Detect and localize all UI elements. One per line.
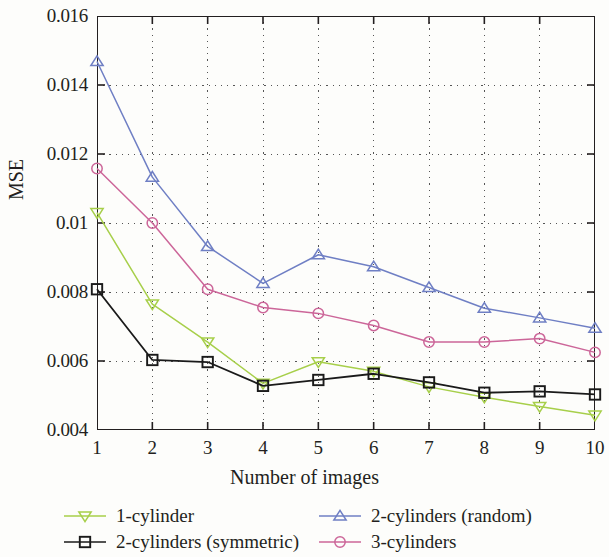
chart-figure: 0.0040.0060.0080.010.0120.0140.016 MSE 1… (0, 0, 609, 557)
legend-swatch-triangle-up-icon (317, 506, 363, 526)
y-tick-label: 0.016 (47, 5, 88, 27)
legend-item-2-cylinders-random: 2-cylinders (random) (317, 505, 562, 527)
y-tick-label: 0.01 (56, 212, 88, 234)
legend-label: 1-cylinder (116, 505, 194, 527)
legend-label: 2-cylinders (symmetric) (116, 531, 299, 553)
legend-swatch-circle-icon (317, 532, 363, 552)
legend: 1-cylinder 2-cylinders (random) 2-cylind… (62, 503, 562, 555)
x-tick-label: 4 (258, 437, 268, 459)
legend-item-1-cylinder: 1-cylinder (62, 505, 317, 527)
data-series-layer (97, 16, 595, 430)
x-tick-label: 6 (369, 437, 379, 459)
legend-item-2-cylinders-symmetric: 2-cylinders (symmetric) (62, 531, 317, 553)
y-tick-label: 0.014 (47, 74, 88, 96)
plot-area (97, 16, 595, 430)
series-3 (91, 56, 601, 332)
y-tick-label: 0.012 (47, 143, 88, 165)
y-tick-label: 0.008 (47, 281, 88, 303)
x-axis-title: Number of images (0, 466, 609, 489)
legend-swatch-triangle-down-icon (62, 506, 108, 526)
x-axis-tick-labels: 12345678910 (0, 437, 609, 463)
y-axis-title: MSE (5, 120, 28, 240)
x-tick-label: 2 (148, 437, 158, 459)
x-tick-label: 1 (92, 437, 102, 459)
series-2 (92, 284, 600, 400)
x-tick-label: 7 (424, 437, 434, 459)
legend-swatch-square-icon (62, 532, 108, 552)
x-tick-label: 9 (535, 437, 545, 459)
legend-item-3-cylinders: 3-cylinders (317, 531, 562, 553)
x-tick-label: 10 (586, 437, 605, 459)
legend-label: 3-cylinders (371, 531, 456, 553)
x-tick-label: 3 (203, 437, 213, 459)
legend-label: 2-cylinders (random) (371, 505, 532, 527)
x-tick-label: 8 (480, 437, 490, 459)
x-tick-label: 5 (314, 437, 324, 459)
y-tick-label: 0.006 (47, 350, 88, 372)
